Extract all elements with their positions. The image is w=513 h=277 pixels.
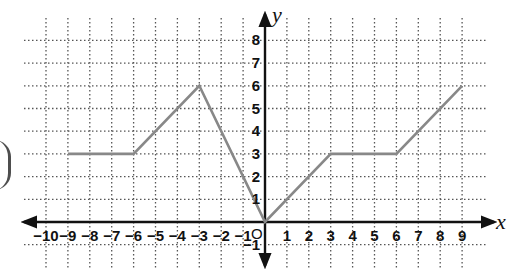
x-tick-label: −7 <box>103 227 120 244</box>
y-tick-label: 6 <box>252 77 260 94</box>
y-tick-label: 5 <box>252 100 260 117</box>
x-tick-label: 7 <box>414 227 422 244</box>
y-tick-label: 4 <box>252 122 261 139</box>
x-tick-label: −10 <box>33 227 58 244</box>
x-tick-label: 5 <box>370 227 378 244</box>
x-tick-label: 8 <box>436 227 444 244</box>
x-tick-label: 6 <box>392 227 400 244</box>
x-axis-label: x <box>495 209 506 234</box>
x-tick-label: 3 <box>327 227 335 244</box>
x-tick-label: 2 <box>305 227 313 244</box>
y-tick-label: 8 <box>252 31 260 48</box>
x-tick-label: −8 <box>81 227 98 244</box>
x-tick-label: 1 <box>283 227 291 244</box>
x-tick-label: −2 <box>213 227 230 244</box>
y-tick-label: 1 <box>252 190 260 207</box>
x-tick-label: 4 <box>348 227 357 244</box>
x-tick-label: −3 <box>191 227 208 244</box>
tick-labels: xyO−10−9−8−7−6−5−4−3−2−1123456789−112345… <box>33 2 506 253</box>
y-tick-label: 2 <box>252 168 260 185</box>
x-tick-label: −5 <box>147 227 164 244</box>
x-tick-label: −9 <box>59 227 76 244</box>
y-tick-label: −1 <box>243 236 260 253</box>
y-axis-label: y <box>270 2 282 27</box>
x-tick-label: 9 <box>458 227 466 244</box>
y-tick-label: 7 <box>252 54 260 71</box>
y-tick-label: 3 <box>252 145 260 162</box>
coordinate-plane: xyO−10−9−8−7−6−5−4−3−2−1123456789−112345… <box>0 0 513 277</box>
x-tick-label: −4 <box>169 227 187 244</box>
x-tick-label: −6 <box>125 227 142 244</box>
